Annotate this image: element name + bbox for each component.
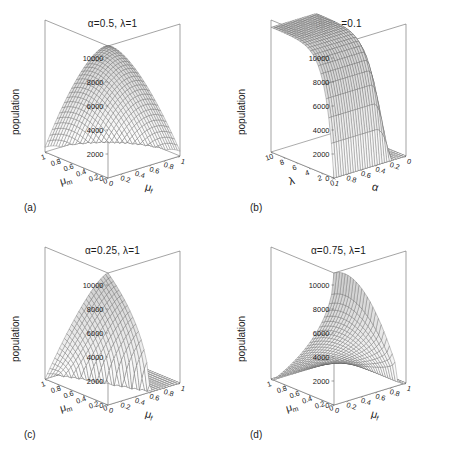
svg-text:4000: 4000: [313, 126, 330, 135]
figure-surface-plot-grid: α=0.5, λ=1 population 020004000600080001…: [0, 0, 451, 454]
svg-text:λ: λ: [287, 174, 296, 187]
svg-text:10000: 10000: [309, 281, 330, 290]
panel-a: α=0.5, λ=1 population 020004000600080001…: [0, 0, 225, 227]
svg-text:4000: 4000: [87, 353, 104, 362]
svg-text:1: 1: [40, 152, 47, 162]
svg-text:2000: 2000: [87, 150, 104, 159]
svg-text:0: 0: [108, 179, 114, 189]
svg-text:μf: μf: [144, 180, 155, 195]
svg-text:μf: μf: [370, 407, 381, 422]
svg-text:0.2: 0.2: [389, 160, 401, 171]
svg-text:0.2: 0.2: [120, 173, 132, 184]
svg-text:0.2: 0.2: [120, 400, 132, 411]
svg-text:8000: 8000: [87, 78, 104, 87]
panel-d-letter: (d): [250, 429, 262, 440]
panel-c: α=0.25, λ=1 population 02000400060008000…: [0, 227, 225, 454]
svg-text:μf: μf: [144, 407, 155, 422]
svg-text:1: 1: [406, 384, 412, 394]
svg-text:α: α: [371, 180, 381, 193]
panel-d: α=0.75, λ=1 population 02000400060008000…: [226, 227, 451, 454]
panel-d-plot: 02000400060008000100000.20.40.60.81010.8…: [226, 227, 451, 454]
panel-b: μf=μm=0.1 population 0200040006000800010…: [226, 0, 451, 227]
svg-text:0.6: 0.6: [374, 391, 386, 402]
svg-text:2000: 2000: [313, 377, 330, 386]
svg-text:4000: 4000: [313, 353, 330, 362]
svg-text:8000: 8000: [87, 305, 104, 314]
panel-c-letter: (c): [24, 429, 36, 440]
panel-a-plot: 02000400060008000100000.20.40.60.81010.8…: [0, 0, 225, 227]
svg-text:10: 10: [264, 152, 274, 163]
svg-text:2000: 2000: [87, 377, 104, 386]
svg-text:0: 0: [334, 406, 340, 416]
svg-text:2: 2: [316, 173, 323, 183]
svg-text:0.8: 0.8: [163, 160, 175, 171]
svg-text:6: 6: [291, 163, 298, 173]
svg-text:10000: 10000: [83, 281, 104, 290]
svg-text:8000: 8000: [313, 78, 330, 87]
svg-text:6000: 6000: [313, 329, 330, 338]
svg-text:0.6: 0.6: [148, 391, 160, 402]
panel-b-plot: 0200040006000800010000108642000.20.40.60…: [226, 0, 451, 227]
svg-text:1: 1: [180, 384, 186, 394]
svg-text:0.4: 0.4: [134, 396, 146, 407]
svg-text:μm: μm: [58, 172, 73, 188]
svg-text:10000: 10000: [83, 54, 104, 63]
svg-text:0.8: 0.8: [163, 387, 175, 398]
panel-c-plot: 02000400060008000100000.20.40.60.81010.8…: [0, 227, 225, 454]
svg-text:0.6: 0.6: [148, 164, 160, 175]
svg-text:1: 1: [180, 157, 186, 167]
svg-text:0.4: 0.4: [134, 169, 146, 180]
svg-text:μm: μm: [284, 399, 299, 415]
panel-b-letter: (b): [250, 202, 262, 213]
svg-text:μm: μm: [58, 399, 73, 415]
svg-text:1: 1: [334, 179, 340, 189]
svg-text:0: 0: [108, 406, 114, 416]
svg-text:2000: 2000: [313, 150, 330, 159]
svg-text:0.2: 0.2: [346, 400, 358, 411]
svg-text:0: 0: [406, 157, 412, 167]
svg-text:6000: 6000: [313, 102, 330, 111]
svg-text:4: 4: [304, 168, 311, 178]
panel-a-letter: (a): [24, 202, 36, 213]
svg-text:0.4: 0.4: [360, 396, 372, 407]
svg-text:1: 1: [266, 379, 273, 389]
svg-text:0.8: 0.8: [389, 387, 401, 398]
svg-text:6000: 6000: [87, 102, 104, 111]
svg-text:4000: 4000: [87, 126, 104, 135]
svg-text:8: 8: [279, 157, 286, 167]
svg-text:10000: 10000: [309, 54, 330, 63]
svg-text:1: 1: [40, 379, 47, 389]
svg-text:8000: 8000: [313, 305, 330, 314]
svg-text:0.4: 0.4: [374, 164, 386, 175]
svg-text:0.8: 0.8: [346, 173, 358, 184]
svg-text:0.6: 0.6: [360, 169, 372, 180]
svg-text:6000: 6000: [87, 329, 104, 338]
